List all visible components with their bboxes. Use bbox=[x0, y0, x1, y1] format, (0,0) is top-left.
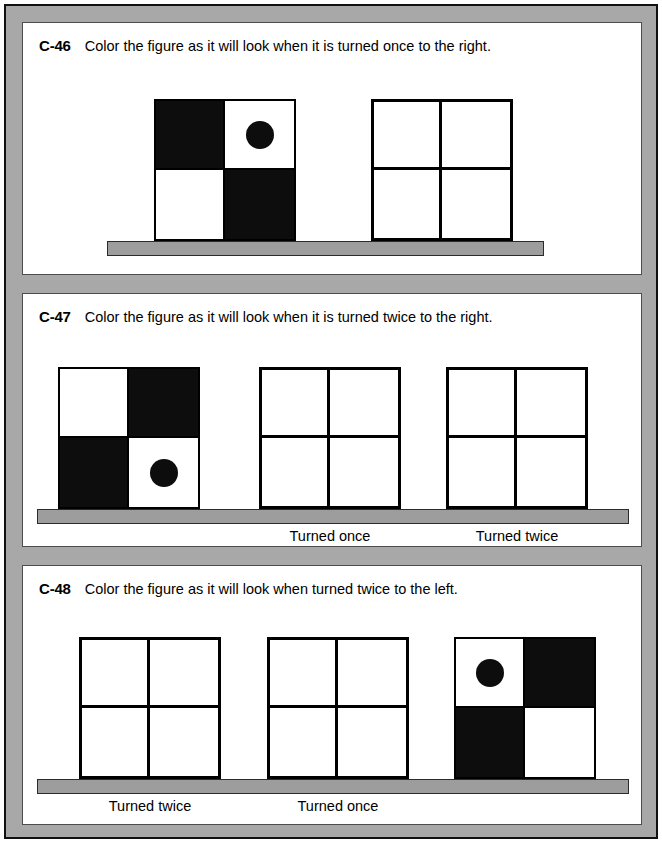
figure-c48-answer-once[interactable] bbox=[267, 637, 409, 779]
cell-c47-once-top-left[interactable] bbox=[262, 370, 330, 438]
cell-c48-twice-bottom-left[interactable] bbox=[82, 708, 150, 776]
cell-c47-once-bottom-right[interactable] bbox=[330, 438, 398, 506]
exercise-panel-c46: C-46 Color the figure as it will look wh… bbox=[22, 22, 642, 275]
cell-c48-given-top-left bbox=[456, 639, 525, 708]
exercise-instruction-c48: Color the figure as it will look when tu… bbox=[85, 581, 458, 597]
figure-c46-given bbox=[154, 99, 296, 241]
figure-c47-answer-twice[interactable] bbox=[446, 367, 588, 509]
marker-dot-icon bbox=[476, 659, 504, 687]
cell-c48-once-top-right[interactable] bbox=[338, 640, 406, 708]
cell-c47-given-bottom-left bbox=[60, 438, 129, 507]
cell-c48-given-bottom-right bbox=[525, 708, 594, 777]
caption-c48-turned-once: Turned once bbox=[267, 798, 409, 814]
cell-c47-given-top-left bbox=[60, 369, 129, 438]
cell-c47-given-bottom-right bbox=[129, 438, 198, 507]
cell-c48-twice-bottom-right[interactable] bbox=[150, 708, 218, 776]
exercise-panel-c47: C-47 Color the figure as it will look wh… bbox=[22, 293, 642, 547]
exercise-panel-list: C-46 Color the figure as it will look wh… bbox=[22, 22, 640, 821]
cell-c47-twice-top-right[interactable] bbox=[517, 370, 585, 438]
cell-c46-answer-top-right[interactable] bbox=[442, 102, 510, 170]
caption-c47-turned-twice: Turned twice bbox=[446, 528, 588, 544]
cell-c46-answer-bottom-right[interactable] bbox=[442, 170, 510, 238]
cell-c48-twice-top-left[interactable] bbox=[82, 640, 150, 708]
cell-c47-once-top-right[interactable] bbox=[330, 370, 398, 438]
cell-c47-twice-bottom-right[interactable] bbox=[517, 438, 585, 506]
exercise-code-c48: C-48 bbox=[39, 580, 71, 597]
exercise-instruction-c47: Color the figure as it will look when it… bbox=[85, 309, 493, 325]
cell-c46-given-top-left bbox=[156, 101, 225, 170]
prompt-c46: C-46 Color the figure as it will look wh… bbox=[39, 37, 631, 54]
cell-c47-twice-bottom-left[interactable] bbox=[449, 438, 517, 506]
figure-c48-given bbox=[454, 637, 596, 779]
figure-c48-answer-twice[interactable] bbox=[79, 637, 221, 779]
cell-c48-twice-top-right[interactable] bbox=[150, 640, 218, 708]
cell-c46-answer-top-left[interactable] bbox=[374, 102, 442, 170]
figure-c47-answer-once[interactable] bbox=[259, 367, 401, 509]
cell-c46-given-top-right bbox=[225, 101, 294, 170]
cell-c48-given-bottom-left bbox=[456, 708, 525, 777]
cell-c48-once-bottom-right[interactable] bbox=[338, 708, 406, 776]
prompt-c47: C-47 Color the figure as it will look wh… bbox=[39, 308, 631, 325]
figure-c47-given bbox=[58, 367, 200, 509]
caption-c48-turned-twice: Turned twice bbox=[79, 798, 221, 814]
caption-c47-turned-once: Turned once bbox=[259, 528, 401, 544]
baseline-shelf-c48 bbox=[37, 779, 629, 794]
cell-c47-once-bottom-left[interactable] bbox=[262, 438, 330, 506]
figure-c46-answer[interactable] bbox=[371, 99, 513, 241]
cell-c47-given-top-right bbox=[129, 369, 198, 438]
exercise-code-c47: C-47 bbox=[39, 308, 71, 325]
exercise-panel-c48: C-48 Color the figure as it will look wh… bbox=[22, 565, 642, 825]
cell-c46-answer-bottom-left[interactable] bbox=[374, 170, 442, 238]
cell-c48-once-bottom-left[interactable] bbox=[270, 708, 338, 776]
marker-dot-icon bbox=[246, 121, 274, 149]
cell-c48-given-top-right bbox=[525, 639, 594, 708]
cell-c48-once-top-left[interactable] bbox=[270, 640, 338, 708]
baseline-shelf-c46 bbox=[107, 241, 544, 256]
worksheet-frame: C-46 Color the figure as it will look wh… bbox=[4, 4, 658, 839]
exercise-instruction-c46: Color the figure as it will look when it… bbox=[85, 38, 491, 54]
exercise-code-c46: C-46 bbox=[39, 37, 71, 54]
cell-c46-given-bottom-right bbox=[225, 170, 294, 239]
cell-c46-given-bottom-left bbox=[156, 170, 225, 239]
marker-dot-icon bbox=[150, 459, 178, 487]
baseline-shelf-c47 bbox=[37, 509, 629, 524]
cell-c47-twice-top-left[interactable] bbox=[449, 370, 517, 438]
prompt-c48: C-48 Color the figure as it will look wh… bbox=[39, 580, 631, 597]
